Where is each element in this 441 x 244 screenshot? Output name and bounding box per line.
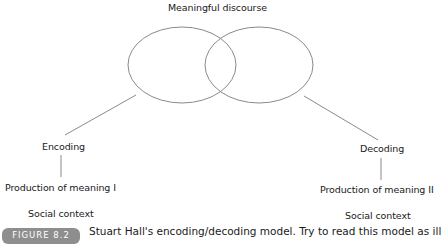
encoding-label: Encoding (42, 141, 85, 152)
diagram-title: Meaningful discourse (168, 2, 267, 13)
figure-caption: Stuart Hall's encoding/decoding model. T… (89, 225, 441, 237)
right-ellipse (205, 27, 313, 103)
production-meaning-1: Production of meaning I (5, 182, 116, 193)
production-meaning-2: Production of meaning II (320, 184, 434, 195)
decoding-label: Decoding (360, 143, 404, 154)
right-connector (304, 96, 378, 140)
figure-label: FIGURE 8.2 (2, 228, 80, 244)
social-context-left: Social context (28, 208, 94, 219)
social-context-right: Social context (345, 210, 411, 221)
left-connector (65, 95, 136, 135)
